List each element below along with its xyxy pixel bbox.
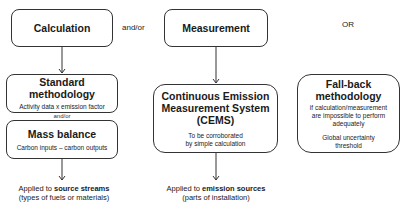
standard-methodology-title-1: Standard bbox=[39, 76, 85, 88]
fallback-desc-3: adequately bbox=[333, 120, 365, 128]
mass-balance-title: Mass balance bbox=[28, 128, 96, 140]
or-label: OR bbox=[342, 20, 354, 29]
applied-calc-prefix: Applied to bbox=[19, 184, 54, 193]
fallback-box: Fall-back methodology if calculation/mea… bbox=[297, 74, 400, 153]
applied-meas-line2: (parts of installation) bbox=[156, 193, 276, 202]
applied-emission-sources: Applied to emission sources (parts of in… bbox=[156, 184, 276, 202]
applied-calc-bold: source streams bbox=[54, 184, 109, 193]
cems-title-2: Measurement System bbox=[162, 102, 270, 114]
fallback-desc2-1: Global uncertainty bbox=[322, 134, 374, 142]
cems-title-1: Continuous Emission bbox=[162, 90, 270, 102]
standard-methodology-box: Standard methodology Activity data x emi… bbox=[6, 74, 118, 113]
fallback-desc-2: are impossible to perform bbox=[312, 112, 385, 120]
mass-balance-subtitle: Carbon inputs – carbon outputs bbox=[17, 144, 108, 152]
andor-label-mid: and/or bbox=[48, 113, 76, 119]
applied-calc-line2: (types of fuels or materials) bbox=[4, 193, 124, 202]
cems-subtitle-1: To be corroborated bbox=[188, 132, 243, 140]
fallback-title-2: methodology bbox=[316, 90, 382, 102]
mass-balance-box: Mass balance Carbon inputs – carbon outp… bbox=[6, 120, 118, 159]
andor-label-top: and/or bbox=[122, 23, 145, 32]
cems-title-3: (CEMS) bbox=[197, 114, 234, 126]
applied-source-streams: Applied to source streams (types of fuel… bbox=[4, 184, 124, 202]
measurement-box: Measurement bbox=[164, 9, 268, 47]
applied-meas-bold: emission sources bbox=[202, 184, 265, 193]
fallback-desc2-2: threshold bbox=[335, 142, 362, 150]
calculation-title: Calculation bbox=[34, 22, 91, 34]
standard-methodology-subtitle: Activity data x emission factor bbox=[19, 103, 105, 111]
cems-box: Continuous Emission Measurement System (… bbox=[153, 84, 278, 153]
applied-meas-prefix: Applied to bbox=[167, 184, 202, 193]
calculation-box: Calculation bbox=[11, 9, 113, 47]
standard-methodology-title-2: methodology bbox=[29, 88, 95, 100]
fallback-title-1: Fall-back bbox=[326, 78, 372, 90]
measurement-title: Measurement bbox=[182, 22, 250, 34]
cems-subtitle-2: by simple calculation bbox=[186, 140, 246, 148]
fallback-desc-1: if calculation/measurement bbox=[310, 104, 387, 112]
